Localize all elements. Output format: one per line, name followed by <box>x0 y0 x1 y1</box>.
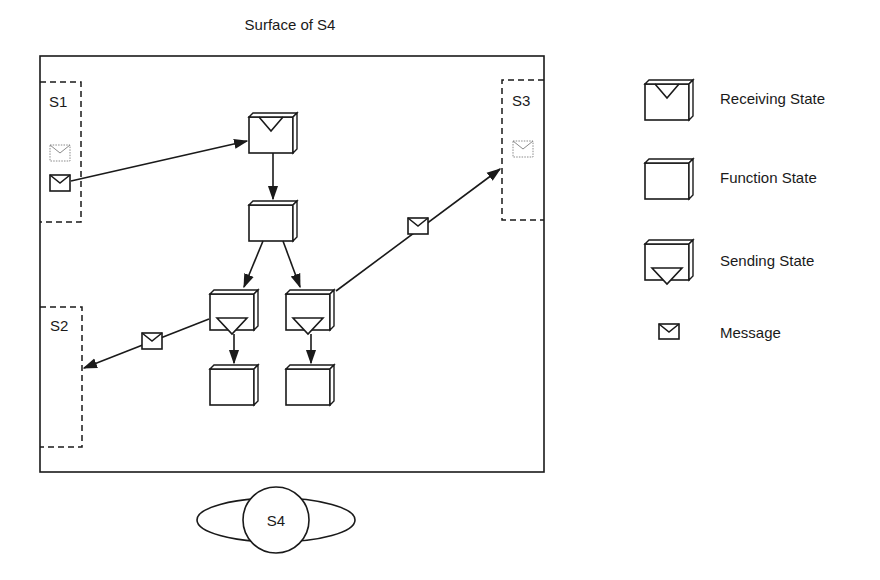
legend-label-receiving: Receiving State <box>720 90 825 107</box>
legend-label-sending: Sending State <box>720 252 814 269</box>
message-ghost-icon <box>513 141 533 157</box>
surface-s3-label: S3 <box>512 92 530 109</box>
sending-state-node-right <box>286 290 334 334</box>
message-ghost-icon <box>50 145 70 161</box>
surface-s1-label: S1 <box>49 93 67 110</box>
message-icon <box>659 324 679 339</box>
legend: Receiving State Function State Sending S… <box>645 80 825 341</box>
message-icon <box>50 175 70 191</box>
sending-state-node-left <box>210 290 258 334</box>
surface-s3: S3 <box>502 80 544 220</box>
arrow-function-to-sending-right <box>283 241 300 287</box>
surface-s1: S1 <box>40 82 81 222</box>
flow-arrows <box>71 141 500 368</box>
arrow-function-to-sending-left <box>244 241 263 287</box>
s4-node-symbol: S4 <box>197 487 355 553</box>
message-icon <box>408 218 428 234</box>
s4-node-label: S4 <box>267 512 285 529</box>
function-state-icon <box>645 159 693 199</box>
legend-label-function: Function State <box>720 169 817 186</box>
sending-state-icon <box>645 240 693 284</box>
legend-label-message: Message <box>720 324 781 341</box>
arrow-s1-to-receiving <box>71 141 247 181</box>
message-icon <box>142 333 162 349</box>
diagram-canvas: Surface of S4 S1 S3 S2 <box>0 0 880 580</box>
function-state-node-bottom-right <box>286 365 334 405</box>
receiving-state-node <box>249 113 297 153</box>
function-state-node <box>249 201 297 241</box>
surface-s2-label: S2 <box>50 317 68 334</box>
receiving-state-icon <box>645 80 693 120</box>
function-state-node-bottom-left <box>210 365 258 405</box>
surface-s2: S2 <box>40 307 82 447</box>
diagram-title: Surface of S4 <box>245 16 336 33</box>
